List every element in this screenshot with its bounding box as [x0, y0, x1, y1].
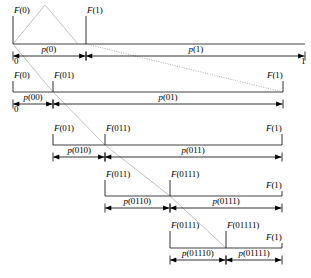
boundary-label: F(01) — [54, 124, 74, 133]
boundary-label: F(1) — [267, 71, 283, 80]
rows-group — [13, 16, 305, 265]
boundary-label: F(01) — [54, 71, 74, 80]
boundary-label: F(1) — [266, 181, 282, 190]
boundary-label: F(1) — [266, 233, 282, 242]
boundary-label: F(011) — [106, 170, 130, 179]
probability-label: p(0) — [42, 45, 57, 54]
probability-label: p(011) — [182, 146, 205, 155]
boundary-label: F(1) — [87, 6, 103, 15]
probability-label: p(0111) — [213, 197, 240, 206]
row-0 — [13, 16, 305, 61]
figure-canvas: F(0)F(1)p(0)p(1)01F(0)F(01)F(1)p(00)p(01… — [0, 0, 311, 278]
boundary-label: F(1) — [266, 124, 282, 133]
probability-label: p(00) — [24, 93, 43, 102]
row-1 — [13, 81, 283, 109]
boundary-label: F(0111) — [171, 170, 199, 179]
probability-label: p(0110) — [124, 197, 151, 206]
endpoint-label: 1 — [301, 57, 305, 66]
probability-label: p(01110) — [182, 249, 214, 258]
probability-label: p(010) — [68, 146, 91, 155]
probability-label: p(01111) — [239, 249, 270, 258]
probability-label: p(01) — [159, 93, 178, 102]
upper-bound-guide — [86, 44, 283, 92]
boundary-label: F(0) — [14, 71, 30, 80]
endpoint-label: 0 — [14, 105, 18, 114]
lower-bound-guide-b — [53, 92, 105, 145]
boundary-label: F(01111) — [227, 221, 259, 230]
boundary-label: F(011) — [106, 124, 130, 133]
diagram-svg — [0, 0, 311, 278]
boundary-label: F(0111) — [171, 221, 199, 230]
endpoint-label: 0 — [14, 57, 18, 66]
probability-label: p(1) — [189, 45, 204, 54]
boundary-label: F(0) — [14, 6, 30, 15]
